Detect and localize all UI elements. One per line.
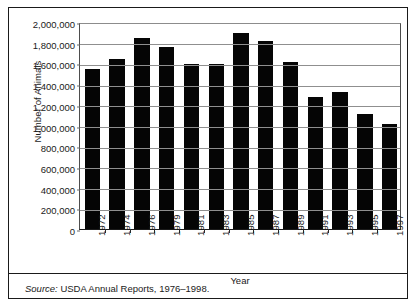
x-tick-label: 1981 — [195, 214, 206, 236]
y-tick-label: 800,000 — [41, 143, 75, 154]
y-tick-label: 1,600,000 — [33, 60, 75, 71]
chart-region: Number of Animals 0200,000400,000600,000… — [9, 8, 407, 263]
x-tick-label: 1976 — [146, 214, 157, 236]
y-tick-mark — [77, 24, 80, 25]
y-tick-mark — [77, 168, 80, 169]
bar — [382, 124, 397, 229]
gridline — [80, 148, 400, 149]
figure-container: Number of Animals 0200,000400,000600,000… — [0, 0, 416, 307]
bar — [258, 41, 273, 229]
y-tick-mark — [77, 65, 80, 66]
y-tick-label: 1,400,000 — [33, 81, 75, 92]
y-tick-mark — [77, 127, 80, 128]
y-tick-label: 0 — [70, 226, 75, 237]
gridline — [80, 127, 400, 128]
x-tick-label: 1972 — [96, 214, 107, 236]
gridline — [80, 189, 400, 190]
bar — [159, 47, 174, 229]
x-tick-label: 1983 — [220, 214, 231, 236]
gridline — [80, 168, 400, 169]
gridline — [80, 106, 400, 107]
bar — [332, 92, 347, 229]
y-tick-label: 200,000 — [41, 205, 75, 216]
gridline — [80, 86, 400, 87]
plot-area: 0200,000400,000600,000800,0001,000,0001,… — [79, 23, 401, 230]
source-note: Source: USDA Annual Reports, 1976–1998. — [25, 283, 209, 294]
y-tick-label: 400,000 — [41, 184, 75, 195]
y-tick-label: 1,200,000 — [33, 101, 75, 112]
x-tick-label: 1979 — [171, 214, 182, 236]
x-tick-label: 1991 — [319, 214, 330, 236]
source-label: Source: — [25, 283, 58, 294]
bar — [233, 33, 248, 229]
bar — [134, 38, 149, 229]
source-text: USDA Annual Reports, 1976–1998. — [58, 283, 210, 294]
y-tick-label: 1,800,000 — [33, 39, 75, 50]
bar — [85, 69, 100, 229]
footer-divider — [8, 273, 408, 274]
y-tick-label: 600,000 — [41, 163, 75, 174]
x-tick-label: 1985 — [245, 214, 256, 236]
x-tick-label: 1993 — [344, 214, 355, 236]
y-tick-mark — [77, 189, 80, 190]
bar — [357, 114, 372, 229]
y-tick-mark — [77, 148, 80, 149]
x-tick-label: 1995 — [369, 214, 380, 236]
gridline — [80, 65, 400, 66]
bar — [283, 62, 298, 229]
x-tick-label: 1989 — [295, 214, 306, 236]
y-tick-label: 2,000,000 — [33, 19, 75, 30]
x-tick-label: 1974 — [121, 214, 132, 236]
y-tick-mark — [77, 231, 80, 232]
x-tick-label: 1997 — [394, 214, 405, 236]
y-tick-mark — [77, 106, 80, 107]
y-tick-label: 1,000,000 — [33, 122, 75, 133]
gridline — [80, 210, 400, 211]
y-tick-mark — [77, 86, 80, 87]
x-tick-label: 1987 — [270, 214, 281, 236]
y-tick-mark — [77, 210, 80, 211]
gridline — [80, 44, 400, 45]
y-tick-mark — [77, 44, 80, 45]
